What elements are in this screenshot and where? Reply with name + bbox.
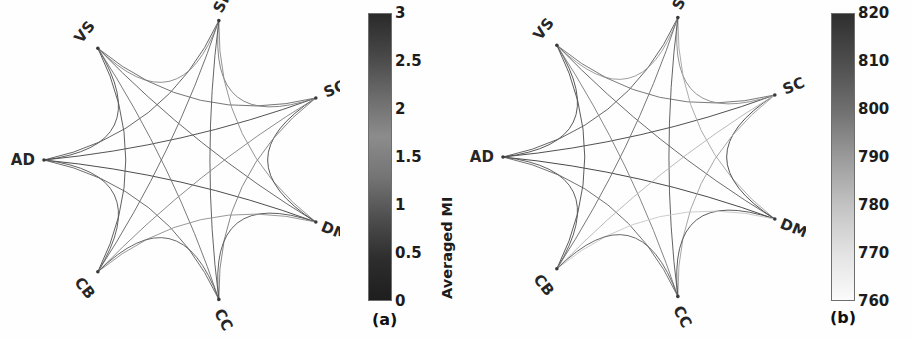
edge — [44, 98, 316, 160]
edge — [503, 45, 578, 157]
edge — [219, 21, 316, 222]
panel-a-caption: (a) — [372, 310, 397, 329]
edge — [98, 48, 316, 106]
edge — [557, 45, 775, 103]
colorbar-tick: 810 — [858, 52, 889, 70]
colorbar-tick: 780 — [858, 196, 889, 214]
node-dot[interactable] — [773, 217, 777, 221]
node-dot[interactable] — [314, 96, 318, 100]
colorbar-a-axis-label: Averaged MI — [439, 197, 455, 299]
colorbar-tick: 760 — [858, 292, 889, 310]
edge — [98, 48, 316, 222]
node-label-dm: DM — [777, 215, 806, 242]
colorbar-tick: 2.5 — [395, 52, 422, 70]
edge — [98, 98, 316, 272]
connectogram-b: ADVSSMSCDMCCCB — [456, 0, 806, 339]
node-dot[interactable] — [773, 93, 777, 97]
node-label-ad: AD — [470, 148, 495, 166]
node-dot[interactable] — [501, 155, 505, 159]
node-dot[interactable] — [96, 270, 100, 274]
edge — [727, 95, 775, 219]
edge — [210, 21, 219, 300]
edge — [557, 45, 585, 269]
edge — [557, 95, 775, 269]
edge — [503, 95, 775, 157]
edge — [219, 98, 316, 299]
colorbar-tick: 0 — [395, 292, 405, 310]
colorbar-tick: 790 — [858, 148, 889, 166]
edge — [669, 18, 678, 297]
node-dot[interactable] — [555, 267, 559, 271]
edge — [44, 160, 119, 272]
panel-b-caption: (b) — [830, 308, 856, 327]
colorbar-tick: 820 — [858, 4, 889, 22]
colorbar-b-gradient — [831, 13, 855, 301]
panel-a: ADVSSMSCDMCCCB 32.521.510.50 Averaged MI… — [0, 0, 456, 339]
colorbar-tick: 2 — [395, 100, 405, 118]
node-label-dm: DM — [318, 218, 340, 245]
edge — [557, 45, 775, 219]
node-label-cb: CB — [530, 271, 558, 300]
edge — [44, 48, 119, 160]
colorbar-tick: 800 — [858, 100, 889, 118]
colorbar-tick: 0.5 — [395, 244, 422, 262]
edge — [557, 211, 775, 269]
node-dot[interactable] — [217, 298, 221, 302]
edge — [268, 98, 316, 222]
edge — [98, 238, 219, 300]
node-label-cb: CB — [71, 274, 99, 303]
figure-root: ADVSSMSCDMCCCB 32.521.510.50 Averaged MI… — [0, 0, 912, 339]
colorbar-tick: 1 — [395, 196, 405, 214]
node-dot[interactable] — [314, 220, 318, 224]
node-label-vs: VS — [530, 14, 558, 43]
node-dot[interactable] — [42, 158, 46, 162]
connectogram-a: ADVSSMSCDMCCCB — [0, 0, 340, 339]
edge — [557, 18, 678, 80]
node-dot[interactable] — [676, 295, 680, 299]
edge — [98, 48, 126, 272]
edge — [677, 210, 775, 296]
edge — [678, 18, 775, 219]
edge — [677, 18, 775, 104]
panel-b: ADVSSMSCDMCCCB 820810800790780770760 No.… — [456, 0, 912, 339]
node-dot[interactable] — [555, 43, 559, 47]
node-label-cc: CC — [669, 303, 696, 331]
node-dot[interactable] — [96, 46, 100, 50]
colorbar-tick: 770 — [858, 244, 889, 262]
edge — [98, 21, 219, 83]
edge — [218, 213, 316, 299]
edge — [503, 157, 775, 219]
edge — [503, 157, 578, 269]
node-dot[interactable] — [217, 19, 221, 23]
edge — [44, 160, 316, 222]
edge — [678, 95, 775, 296]
colorbar-tick: 3 — [395, 4, 405, 22]
node-label-sm: SM — [209, 0, 237, 16]
edge — [98, 214, 316, 272]
node-label-cc: CC — [210, 306, 237, 334]
node-label-ad: AD — [11, 151, 36, 169]
edge — [557, 235, 678, 297]
colorbar-b-ticks: 820810800790780770760 — [858, 13, 904, 301]
node-dot[interactable] — [676, 16, 680, 20]
node-label-sm: SM — [668, 0, 696, 13]
colorbar-a-gradient — [368, 13, 392, 301]
colorbar-tick: 1.5 — [395, 148, 422, 166]
node-label-vs: VS — [71, 17, 99, 46]
edge — [218, 21, 316, 107]
colorbar-a-ticks: 32.521.510.50 — [395, 13, 441, 301]
node-label-sc: SC — [321, 76, 340, 101]
node-label-sc: SC — [780, 73, 806, 98]
